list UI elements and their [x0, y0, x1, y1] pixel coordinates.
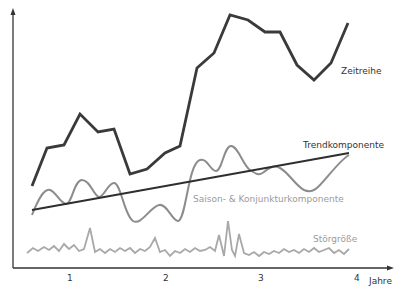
x-axis-label: Jahre	[369, 277, 392, 286]
trendkomponente-label: Trendkomponente	[303, 141, 384, 150]
y-axis-arrow-icon	[11, 8, 16, 15]
zeitreihe-line	[32, 15, 348, 186]
saison-konjunktur-label: Saison- & Konjunkturkomponente	[193, 195, 344, 204]
x-tick-1: 1	[67, 274, 73, 283]
x-tick-3: 3	[258, 274, 264, 283]
x-axis-arrow-icon	[387, 266, 394, 271]
stoergroesse-label: Störgröße	[313, 235, 357, 244]
x-tick-2: 2	[163, 274, 169, 283]
time-series-decomposition-diagram: Zeitreihe Trendkomponente Saison- & Konj…	[0, 0, 404, 295]
zeitreihe-label: Zeitreihe	[341, 67, 382, 76]
x-tick-4: 4	[354, 274, 360, 283]
stoergroesse-line	[27, 221, 349, 256]
saison-konjunktur-line	[32, 146, 349, 222]
